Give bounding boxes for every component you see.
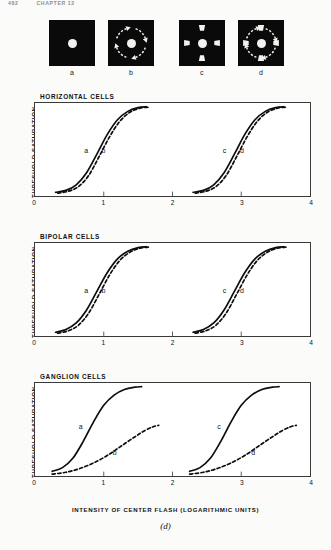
curve-label-d: d [240,147,244,154]
plot-panel: BIPOLAR CELLSSATURATIONTHRESHOLDabcd0123… [0,233,331,353]
x-tick-label: 2 [166,479,180,486]
panel-title: BIPOLAR CELLS [40,233,100,240]
curve-c [190,387,279,472]
stimulus-a-label: a [49,69,95,76]
curve-d [190,425,297,474]
figure-caption: (d) [0,521,331,531]
curve-label-d: d [240,287,244,294]
stimulus-b-image [108,20,154,66]
panel-title: HORIZONTAL CELLS [40,93,114,100]
x-tick-label: 0 [27,479,41,486]
x-tick-label: 1 [96,339,110,346]
plot-panel: HORIZONTAL CELLSSATURATIONTHRESHOLDabcd0… [0,93,331,213]
plot-area: abcd [34,382,311,477]
curve-label-b: b [113,449,117,456]
curve-label-a: a [84,287,88,294]
stimulus-b: b [108,20,154,76]
x-tick-label: 0 [27,339,41,346]
running-head: CHAPTER 12 [37,0,75,6]
stimulus-c: c [179,20,225,76]
x-tick-label: 0 [27,199,41,206]
stimulus-d-image [238,20,284,66]
stimulus-d-label: d [238,69,284,76]
x-tick-label: 1 [96,199,110,206]
x-tick-label: 3 [235,339,249,346]
center-spot-icon [198,39,207,48]
x-tick-label: 4 [304,339,318,346]
page-header: 482 CHAPTER 12 [8,0,75,6]
center-spot-icon [257,39,266,48]
page-number: 482 [8,0,18,6]
stimulus-a-image [49,20,95,66]
plot-area: abcd [34,102,311,197]
stimulus-a: a [49,20,95,76]
x-tick-label: 3 [235,479,249,486]
x-tick-label: 1 [96,479,110,486]
x-tick-label: 2 [166,339,180,346]
x-tick-label: 4 [304,479,318,486]
stimulus-c-label: c [179,69,225,76]
x-axis-label: INTENSITY OF CENTER FLASH (LOGARITHMIC U… [0,506,331,513]
curve-label-c: c [223,147,227,154]
panel-title: GANGLION CELLS [40,373,106,380]
curve-b [52,425,159,474]
stimulus-c-image [179,20,225,66]
x-tick-label: 2 [166,199,180,206]
stimulus-icon-row: abcd [0,20,331,82]
center-spot-icon [68,39,77,48]
curve-label-c: c [223,287,227,294]
curve-c [193,107,284,193]
curve-label-a: a [84,147,88,154]
center-spot-icon [127,39,136,48]
figure-root: 482 CHAPTER 12 abcd HORIZONTAL CELLSSATU… [0,0,331,550]
plot-panel: GANGLION CELLSSATURATIONTHRESHOLDabcd012… [0,373,331,493]
curve-label-b: b [102,147,106,154]
curve-label-a: a [79,423,83,430]
curve-label-c: c [217,423,221,430]
x-tick-label: 4 [304,199,318,206]
x-tick-label: 3 [235,199,249,206]
plot-area: abcd [34,242,311,337]
stimulus-d: d [238,20,284,76]
curve-label-b: b [102,287,106,294]
curve-a [52,387,141,472]
curve-label-d: d [251,449,255,456]
stimulus-b-label: b [108,69,154,76]
